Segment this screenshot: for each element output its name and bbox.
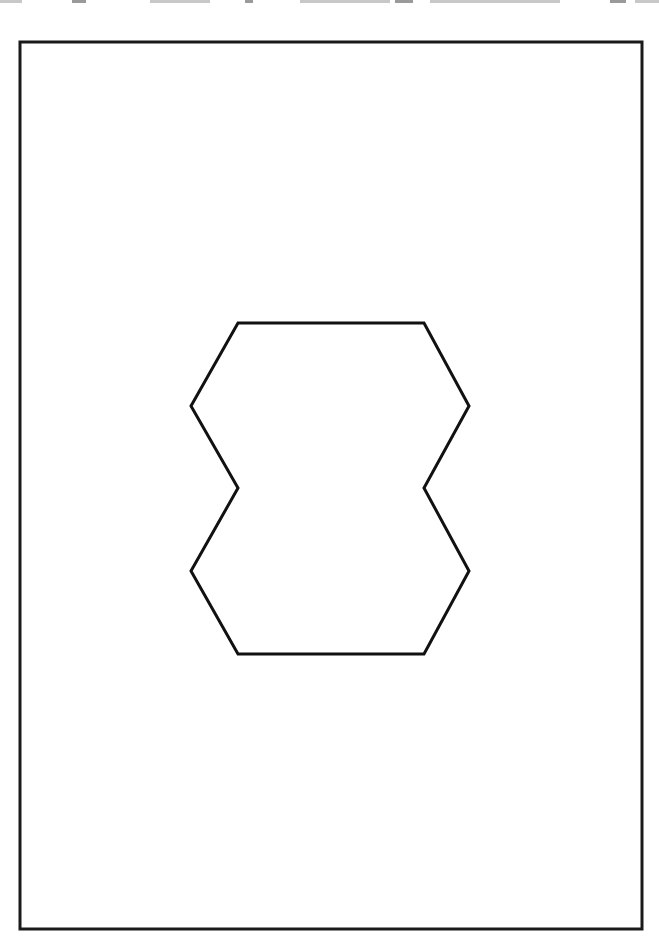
page-frame-border [20, 42, 642, 929]
double-hexagon-shape [191, 323, 469, 654]
page-canvas [0, 0, 659, 938]
